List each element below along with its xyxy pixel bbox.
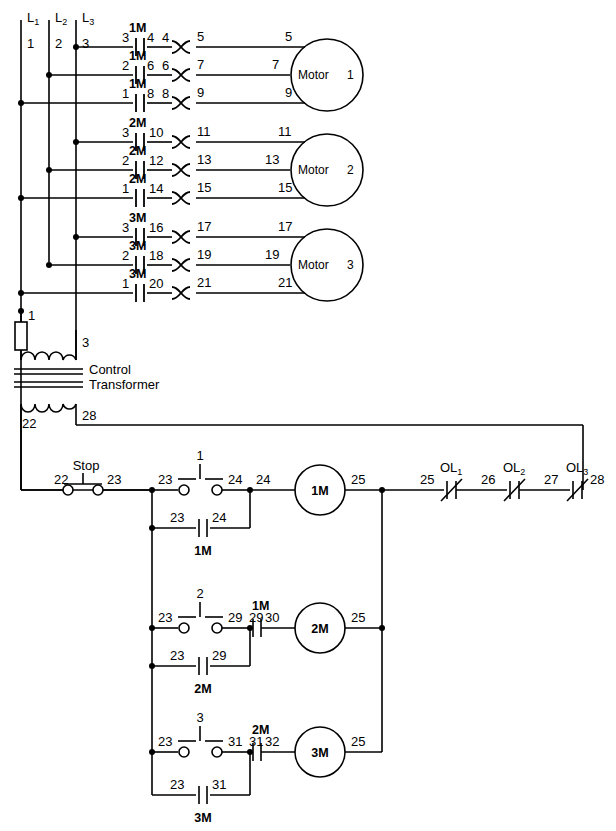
line-wire-L1: 1 (27, 36, 34, 51)
m1-pB-motorin: 7 (272, 57, 279, 72)
motor-1-number: 1 (347, 68, 354, 82)
rung1-coil-label: 1M (311, 484, 328, 498)
m3-pC-olout: 21 (197, 275, 211, 290)
m2-pC-contact: 2M (129, 172, 146, 186)
m1-pC-motorin: 9 (285, 85, 292, 100)
motor-3-number: 3 (347, 258, 354, 272)
m2-pA-olout: 11 (197, 124, 211, 139)
rung3-seal-out-label: 31 (212, 777, 226, 792)
ol1-label: OL1 (440, 460, 462, 477)
xfmr-secondary-right-wire: 28 (82, 408, 96, 423)
rung1-start-terminal-left (179, 485, 189, 495)
rung2-start-terminal-right (212, 623, 222, 633)
rung2-seal-device-label: 2M (194, 682, 211, 696)
rung3-seal-device-label: 3M (194, 811, 211, 825)
rung2-coil-out-label: 25 (351, 610, 365, 625)
xfmr-primary-winding (21, 352, 76, 360)
m3-pA-contact: 3M (129, 211, 146, 225)
m1-pA-contact: 1M (129, 21, 146, 35)
line-label-L3: L3 (82, 10, 94, 27)
m1-pA-olout: 5 (197, 29, 204, 44)
m1-pC-olout: 9 (197, 85, 204, 100)
ol1-in-label: 25 (420, 472, 434, 487)
rung1-seal-in-label: 23 (170, 510, 184, 525)
m2-pB-motorin: 13 (265, 152, 279, 167)
control-transformer-label-line2: Transformer (89, 377, 160, 392)
xfmr-primary-left-wire: 1 (28, 308, 35, 323)
m2-pC-olout: 15 (197, 180, 211, 195)
m2-pC-motorin: 15 (278, 180, 292, 195)
overload-heater-icon-group (172, 41, 190, 299)
ladder-diagram-canvas: L1 L2 L3 1 2 3 3 1M 4 4 5 5 2 1M 6 6 7 7… (0, 0, 616, 831)
m1-pA-midR: 4 (162, 30, 169, 45)
m3-pB-contact: 3M (129, 239, 146, 253)
m3-pB-midL: 18 (149, 248, 163, 263)
rung2-coil-label: 2M (311, 622, 328, 636)
stop-button-label: Stop (73, 458, 100, 473)
motor-3-name: Motor (298, 258, 329, 272)
rung3-seal-in-label: 23 (170, 777, 184, 792)
rung3-coil-in-label: 32 (265, 734, 279, 749)
rung1-seal-device-label: 1M (194, 544, 211, 558)
m1-pC-contact: 1M (129, 77, 146, 91)
m3-pB-motorin: 19 (265, 247, 279, 262)
rung1-coil-in-label: 24 (256, 472, 270, 487)
rung3-start-terminal-right (212, 747, 222, 757)
rung2-start-terminal-left (179, 623, 189, 633)
m2-pC-midL: 14 (149, 181, 163, 196)
m1-pB-olout: 7 (197, 57, 204, 72)
rung2-start-button-label: 2 (196, 586, 203, 601)
rung1-start-button-label: 1 (196, 448, 203, 463)
control-text-labels: Stop 22 23 23 1 24 24 1M 25 23 24 1M 25 … (54, 448, 604, 825)
rung1-seal-out-label: 24 (212, 510, 226, 525)
m1-pA-motorin: 5 (285, 29, 292, 44)
rung1-coil-out-label: 25 (351, 472, 365, 487)
rung2-seal-out-label: 29 (212, 648, 226, 663)
ol3-out-label: 28 (590, 472, 604, 487)
stop-terminal-right (93, 485, 103, 495)
m2-pA-motorin: 11 (278, 124, 292, 139)
rung2-coil-in-label: 30 (265, 610, 279, 625)
m1-pC-midR: 8 (162, 86, 169, 101)
m1-pA-midL: 4 (147, 30, 154, 45)
rung1-start-in-label: 23 (158, 472, 172, 487)
rung2-start-out-label: 29 (228, 610, 242, 625)
power-section (18, 20, 363, 490)
control-circuit (21, 464, 588, 804)
stop-wire-in-label: 22 (54, 472, 68, 487)
xfmr-primary-right-wire: 3 (82, 335, 89, 350)
ol2-label: OL2 (503, 460, 525, 477)
line-label-L2: L2 (55, 10, 67, 27)
rung3-start-terminal-left (179, 747, 189, 757)
control-transformer-label-line1: Control (89, 362, 131, 377)
rung3-start-button-label: 3 (196, 710, 203, 725)
motor-2-name: Motor (298, 163, 329, 177)
ol2-out-label: 27 (544, 472, 558, 487)
m1-pB-midL: 6 (147, 58, 154, 73)
ol3-label: OL3 (566, 460, 588, 477)
ol3-slash (567, 479, 588, 501)
m3-pA-olout: 17 (197, 219, 211, 234)
ol1-out-label: 26 (481, 472, 495, 487)
rung3-coil-out-label: 25 (351, 734, 365, 749)
rung2-seal-in-label: 23 (170, 648, 184, 663)
m3-pA-motorin: 17 (278, 219, 292, 234)
motor-2-number: 2 (347, 163, 354, 177)
line-label-L1: L1 (27, 10, 39, 27)
rung2-start-in-label: 23 (158, 610, 172, 625)
ladder-diagram-svg: L1 L2 L3 1 2 3 3 1M 4 4 5 5 2 1M 6 6 7 7… (0, 0, 616, 831)
m2-pB-olout: 13 (197, 152, 211, 167)
m1-pC-midL: 8 (147, 86, 154, 101)
m2-pB-midL: 12 (149, 153, 163, 168)
rung3-start-in-label: 23 (158, 734, 172, 749)
m3-pB-olout: 19 (197, 247, 211, 262)
m1-pB-midR: 6 (162, 58, 169, 73)
xfmr-secondary-left-wire: 22 (22, 416, 36, 431)
rung1-start-terminal-right (212, 485, 222, 495)
m3-pC-motorin: 21 (278, 275, 292, 290)
line-wire-L2: 2 (55, 36, 62, 51)
m1-pB-contact: 1M (129, 49, 146, 63)
stop-wire-out-label: 23 (107, 472, 121, 487)
m2-pA-midL: 10 (149, 125, 163, 140)
motor-1-name: Motor (298, 68, 329, 82)
